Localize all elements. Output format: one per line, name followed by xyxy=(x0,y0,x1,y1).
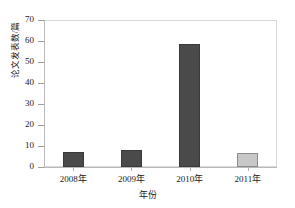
x-tick-mark xyxy=(248,167,249,171)
bar-2011年 xyxy=(237,153,258,167)
x-tick-mark xyxy=(190,167,191,171)
x-tick-label: 2009年 xyxy=(103,172,159,185)
y-tick-mark xyxy=(38,167,44,168)
bar-2010年 xyxy=(179,44,200,167)
x-tick-label: 2008年 xyxy=(45,172,101,185)
bar-2008年 xyxy=(63,152,84,167)
y-tick-label: 0 xyxy=(8,162,34,171)
y-tick-mark xyxy=(38,41,44,42)
y-tick-label: 10 xyxy=(8,141,34,150)
y-tick-mark xyxy=(38,125,44,126)
x-axis-title: 年份 xyxy=(0,188,295,201)
y-tick-label: 20 xyxy=(8,120,34,129)
y-tick-mark xyxy=(38,62,44,63)
y-tick-mark xyxy=(38,104,44,105)
y-axis-title: 论文发表数/篇 xyxy=(8,2,20,98)
bar-chart-figure: 010203040506070 2008年2009年2010年2011年 论文发… xyxy=(0,0,295,208)
y-tick-mark xyxy=(38,83,44,84)
x-tick-label: 2011年 xyxy=(220,172,276,185)
x-tick-mark xyxy=(131,167,132,171)
x-tick-label: 2010年 xyxy=(162,172,218,185)
x-tick-mark xyxy=(73,167,74,171)
y-tick-label: 30 xyxy=(8,99,34,108)
bars-layer xyxy=(45,21,276,167)
bar-2009年 xyxy=(121,150,142,167)
y-tick-mark xyxy=(38,146,44,147)
y-tick-mark xyxy=(38,20,44,21)
x-axis-line xyxy=(44,167,277,168)
